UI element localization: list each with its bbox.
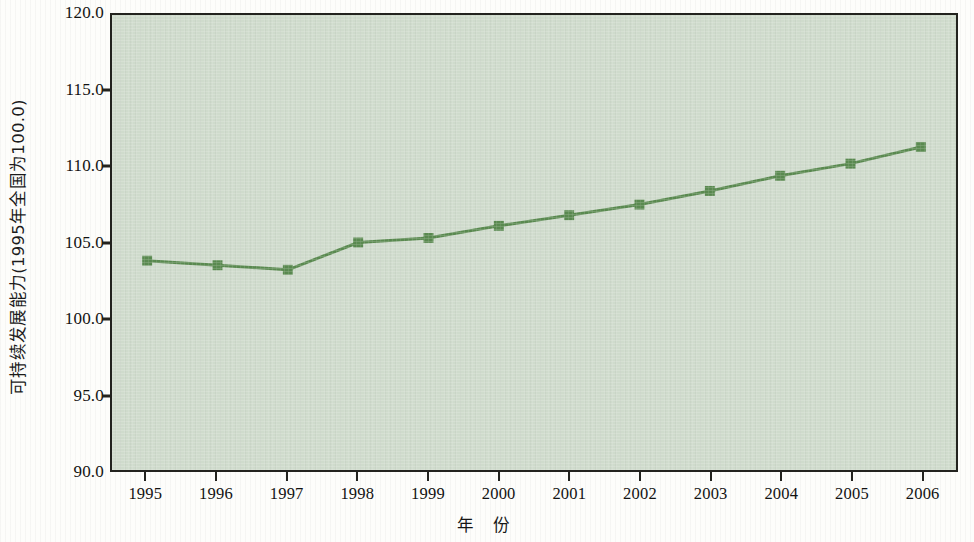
- y-axis-tick-label: 105.0: [28, 233, 104, 253]
- x-axis-tick-mark: [639, 472, 641, 481]
- x-axis-tick-label: 1996: [181, 484, 251, 504]
- data-point-marker: [846, 159, 856, 169]
- x-axis-tick-mark: [498, 472, 500, 481]
- x-axis-tick-label: 2004: [746, 484, 816, 504]
- x-axis-tick-label: 1997: [252, 484, 322, 504]
- data-point-marker: [916, 142, 926, 152]
- y-axis-tick-mark: [102, 394, 111, 397]
- y-axis-tick-mark: [102, 88, 111, 91]
- x-axis-tick-label: 2000: [464, 484, 534, 504]
- x-axis-tick-mark: [356, 472, 358, 481]
- y-axis-tick-labels: 90.095.0100.0105.0110.0115.0120.0: [24, 0, 104, 542]
- x-axis-tick-label: 2001: [534, 484, 604, 504]
- chart-figure: 可持续发展能力(1995年全国为100.0) 90.095.0100.0105.…: [0, 0, 974, 542]
- x-axis-tick-label: 1995: [110, 484, 180, 504]
- y-axis-tick-label: 90.0: [28, 462, 104, 482]
- x-axis-tick-label: 2002: [605, 484, 675, 504]
- x-axis-tick-mark: [851, 472, 853, 481]
- x-axis-tick-mark: [427, 472, 429, 481]
- x-axis-tick-mark: [780, 472, 782, 481]
- data-point-marker: [564, 210, 574, 220]
- x-axis-tick-mark: [568, 472, 570, 481]
- x-axis-tick-label: 2005: [817, 484, 887, 504]
- y-axis-tick-label: 115.0: [28, 80, 104, 100]
- line-chart-svg: [112, 15, 956, 470]
- x-axis-tick-label: 1998: [322, 484, 392, 504]
- data-point-marker: [142, 256, 152, 266]
- plot-area: [110, 13, 958, 472]
- x-axis-tick-mark: [922, 472, 924, 481]
- y-axis-tick-label: 100.0: [28, 309, 104, 329]
- data-point-marker: [424, 233, 434, 243]
- data-point-marker: [635, 200, 645, 210]
- data-point-marker: [494, 221, 504, 231]
- data-point-marker: [705, 186, 715, 196]
- x-axis-tick-label: 1999: [393, 484, 463, 504]
- y-axis-tick-label: 120.0: [28, 3, 104, 23]
- series-line: [147, 147, 921, 270]
- y-axis-tick-mark: [102, 165, 111, 168]
- data-point-marker: [283, 265, 293, 275]
- x-axis-tick-label: 2006: [888, 484, 958, 504]
- data-point-marker: [775, 171, 785, 181]
- x-axis-tick-mark: [144, 472, 146, 481]
- x-axis-label: 年 份: [0, 512, 974, 536]
- x-axis-tick-mark: [286, 472, 288, 481]
- y-axis-tick-mark: [102, 318, 111, 321]
- data-point-marker: [213, 260, 223, 270]
- y-axis-tick-label: 110.0: [28, 156, 104, 176]
- x-axis-tick-mark: [215, 472, 217, 481]
- x-axis-tick-mark: [710, 472, 712, 481]
- y-axis-tick-label: 95.0: [28, 386, 104, 406]
- y-axis-tick-mark: [102, 241, 111, 244]
- data-point-marker: [353, 238, 363, 248]
- x-axis-tick-label: 2003: [676, 484, 746, 504]
